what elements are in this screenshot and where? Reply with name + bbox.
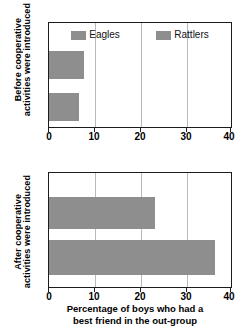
x-axis-title: Percentage of boys who had a best friend… — [30, 303, 240, 327]
ticklabel-30: 30 — [180, 292, 191, 302]
y-axis-label-after: After cooperative activities were introd… — [0, 172, 46, 292]
legend-label-rattlers: Rattlers — [174, 30, 208, 40]
gridline-30 — [187, 23, 188, 127]
plot-area-after — [48, 172, 232, 288]
bar-after-eagles — [49, 197, 155, 229]
legend-entry-rattlers: Rattlers — [156, 30, 208, 40]
panel-before: Before cooperative activities were intro… — [0, 0, 245, 152]
ticklabel-30: 30 — [180, 132, 191, 142]
ticklabel-0: 0 — [46, 132, 52, 142]
legend-label-eagles: Eagles — [89, 30, 120, 40]
x-axis-before: 0 10 20 30 40 — [48, 128, 232, 144]
ticklabel-40: 40 — [223, 132, 234, 142]
x-axis-after: 0 10 20 30 40 — [48, 288, 232, 304]
ticklabel-0: 0 — [46, 292, 52, 302]
ticklabel-20: 20 — [134, 292, 145, 302]
legend-swatch-rattlers — [156, 31, 171, 40]
bar-before-eagles — [49, 51, 84, 79]
ticklabel-40: 40 — [223, 292, 234, 302]
plot-area-before: Eagles Rattlers — [48, 22, 232, 128]
ticklabel-10: 10 — [88, 292, 99, 302]
y-axis-label-before: Before cooperative activities were intro… — [0, 0, 46, 120]
ticklabel-10: 10 — [88, 132, 99, 142]
ticklabel-20: 20 — [134, 132, 145, 142]
x-axis-title-line2: best friend in the out-group — [30, 315, 240, 327]
x-axis-title-line1: Percentage of boys who had a — [30, 303, 240, 315]
legend-swatch-eagles — [71, 31, 86, 40]
bar-chart-figure: Before cooperative activities were intro… — [0, 0, 245, 329]
bar-after-rattlers — [49, 240, 215, 275]
y-axis-label-after-line2: activities were introduced — [23, 175, 32, 288]
gridline-20 — [141, 23, 142, 127]
legend: Eagles Rattlers — [49, 27, 231, 43]
bar-before-rattlers — [49, 93, 79, 121]
gridline-10 — [95, 23, 96, 127]
y-axis-label-before-line2: activities were introduced — [23, 3, 32, 116]
